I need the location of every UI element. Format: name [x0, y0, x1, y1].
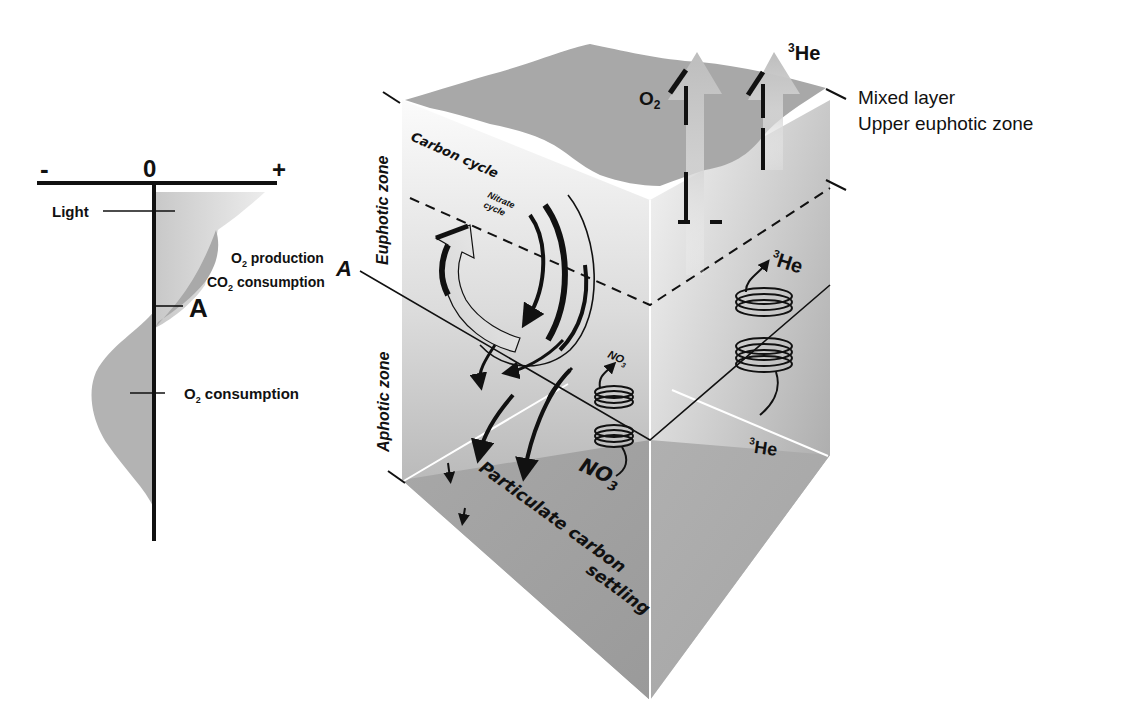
aphotic-zone-label: Aphotic zone	[375, 351, 392, 453]
depth-profile: - 0 + Light O2 production CO2 consumptio…	[37, 154, 325, 541]
light-label: Light	[52, 203, 89, 220]
upper-euphotic-label: Upper euphotic zone	[858, 113, 1033, 134]
euphotic-zone-label: Euphotic zone	[374, 156, 391, 265]
axis-plus-label: +	[272, 156, 286, 183]
ocean-productivity-diagram: - 0 + Light O2 production CO2 consumptio…	[0, 0, 1122, 711]
mixed-layer-tick-left	[383, 92, 400, 103]
mixed-layer-pointer	[826, 89, 846, 99]
o2-consumption-label: O2 consumption	[184, 385, 299, 405]
consumption-curve-area	[92, 310, 155, 510]
profile-marker-a: A	[189, 293, 208, 323]
block-marker-a: A	[335, 256, 352, 281]
axis-minus-label: -	[40, 154, 49, 184]
he-flux-label: 3He	[788, 41, 820, 64]
mixed-layer-label: Mixed layer	[858, 87, 956, 108]
ocean-block: O2 3He Mixed layer Upper euphotic zone E…	[335, 41, 1033, 700]
axis-zero-label: 0	[143, 155, 156, 182]
co2-consumption-label: CO2 consumption	[207, 274, 325, 293]
o2-production-label: O2 production	[231, 250, 324, 269]
block-bottom-right	[650, 440, 830, 700]
